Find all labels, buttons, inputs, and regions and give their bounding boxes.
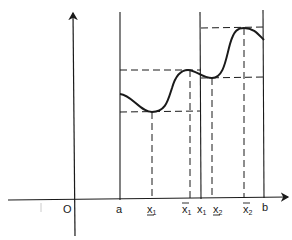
min-level-1 [120,111,201,112]
label-a: a [116,203,123,215]
function-graph: O a x1 x1 x1 x2 x2 b [0,0,292,240]
label-x-bar-2: x2 [243,203,253,216]
label-b: b [262,201,268,213]
x-axis [8,197,288,200]
label-x-under-1: x1 [147,203,157,216]
label-x1: x1 [197,203,207,216]
label-x-under-2: x2 [213,203,223,216]
max-level-2 [201,27,264,28]
origin-label: O [63,203,72,215]
label-x-bar-1: x1 [182,203,192,216]
y-axis [73,13,75,236]
function-curve [120,28,264,112]
line-x1 [200,12,201,199]
